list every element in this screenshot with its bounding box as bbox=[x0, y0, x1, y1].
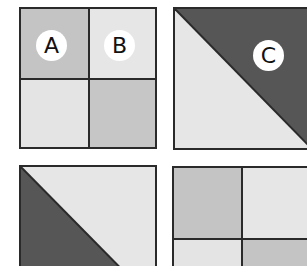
patch-bottom-right bbox=[242, 238, 307, 266]
divider-vertical bbox=[241, 168, 243, 266]
patch-bottom-left bbox=[174, 238, 242, 266]
four-patch-block-top: A B bbox=[19, 7, 157, 149]
patch-top-left bbox=[174, 168, 242, 238]
half-square-triangle-block-top: C bbox=[173, 7, 307, 150]
patch-bottom-right bbox=[89, 78, 157, 149]
divider-horizontal bbox=[21, 78, 155, 80]
divider-horizontal bbox=[174, 238, 307, 240]
four-patch-block-bottom bbox=[172, 166, 307, 266]
label-a-badge: A bbox=[36, 30, 67, 61]
patch-bottom-left bbox=[21, 78, 89, 149]
patch-top-right bbox=[242, 168, 307, 238]
label-c-badge: C bbox=[253, 40, 284, 71]
triangle-diagram bbox=[175, 9, 307, 150]
triangle-diagram-bottom bbox=[21, 167, 157, 266]
half-square-triangle-block-bottom bbox=[19, 165, 157, 266]
label-b-badge: B bbox=[104, 30, 135, 61]
